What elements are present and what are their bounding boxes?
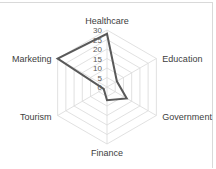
tick-label: 20 — [93, 45, 102, 54]
category-label-marketing: Marketing — [12, 54, 52, 64]
tick-label: 30 — [93, 26, 102, 35]
tick-label: 25 — [93, 36, 102, 45]
category-label-government: Government — [162, 112, 212, 122]
tick-label: 15 — [93, 55, 102, 64]
category-label-tourism: Tourism — [20, 112, 52, 122]
category-labels: HealthcareEducationGovernmentFinanceTour… — [12, 16, 212, 158]
tick-label: 0 — [98, 83, 103, 92]
tick-label: 10 — [93, 64, 102, 73]
radar-chart: 051015202530 HealthcareEducationGovernme… — [0, 0, 216, 169]
category-label-education: Education — [162, 54, 202, 64]
category-label-finance: Finance — [91, 148, 123, 158]
category-label-healthcare: Healthcare — [85, 16, 129, 26]
tick-label: 5 — [98, 74, 103, 83]
radar-grid — [58, 30, 157, 144]
